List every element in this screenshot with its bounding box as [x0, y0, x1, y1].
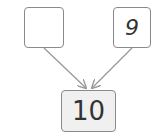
whole-box: 10	[61, 90, 116, 132]
arrow-right-to-total	[92, 48, 132, 88]
part-box-right: 9	[113, 7, 151, 48]
part-value-right: 9	[125, 15, 139, 40]
arrow-left-to-total	[44, 48, 86, 88]
part-box-empty[interactable]	[24, 7, 64, 48]
whole-value: 10	[72, 96, 105, 126]
